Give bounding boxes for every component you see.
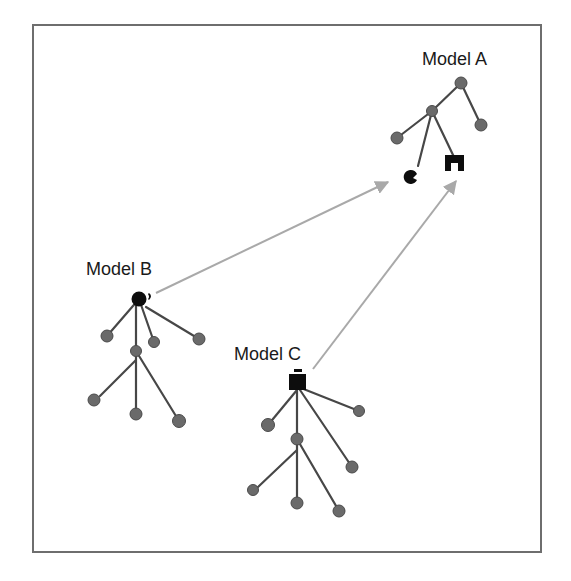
socket-round-icon: [404, 170, 417, 184]
model-a-leaf-node: [391, 132, 403, 144]
model-b-tree: Model B: [86, 259, 205, 428]
model-c-leaf-node: [291, 497, 303, 509]
model-b-leaf-node: [193, 333, 205, 345]
socket-square-icon: [445, 155, 464, 171]
connector-tab-icon: [294, 369, 302, 372]
model-b-leaf-node: [130, 408, 142, 420]
model-b-leaf-node: [173, 415, 186, 428]
model-c-leaf-node: [333, 505, 345, 517]
model-b-leaf-node: [101, 330, 113, 342]
model-c-tree: Model C: [234, 344, 365, 517]
model-b-leaf-node: [149, 337, 160, 348]
model-a-tree: Model A: [391, 49, 487, 184]
model-c-leaf-node: [346, 461, 358, 473]
model-c-leaf-node: [262, 419, 275, 432]
model-b-leaf-node: [88, 394, 100, 406]
model-c-leaf-node: [248, 485, 259, 496]
model-c-leaf-node: [354, 406, 365, 417]
arrow-c-to-a: [313, 181, 456, 369]
model-b-label: Model B: [86, 259, 152, 279]
model-b-root-connector-icon: [132, 292, 147, 307]
model-c-mid-node: [291, 433, 303, 445]
connector-fragment-icon: [148, 293, 151, 300]
model-a-leaf-node: [475, 119, 487, 131]
model-a-root-node: [455, 77, 467, 89]
diagram-canvas: Model A Model B Model C: [0, 0, 571, 581]
model-a-mid-node: [427, 106, 438, 117]
model-c-label: Model C: [234, 344, 301, 364]
model-c-root-connector-icon: [289, 374, 306, 390]
model-b-mid-node: [131, 346, 142, 357]
arrow-b-to-a: [156, 182, 388, 293]
model-a-label: Model A: [422, 49, 487, 69]
